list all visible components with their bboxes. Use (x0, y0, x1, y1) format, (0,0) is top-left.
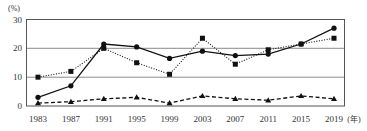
data-point-square-1991 (101, 46, 106, 51)
x-tick-label-2011: 2011 (259, 114, 277, 124)
x-tick-labels: 1983198719911995199920032007201120152019 (29, 114, 344, 124)
data-point-circle-1999 (167, 56, 172, 61)
data-point-square-2011 (266, 47, 271, 52)
plot-frame (27, 20, 345, 107)
data-point-square-1983 (36, 75, 41, 80)
y-axis-unit-group: (%) (8, 4, 20, 13)
data-point-square-2003 (200, 36, 205, 41)
data-point-square-2007 (233, 62, 238, 67)
data-point-square-1999 (167, 72, 172, 77)
data-point-circle-2007 (233, 53, 238, 58)
x-tick-label-2019: 2019 (325, 114, 344, 124)
line-chart: (%) 30 20 10 0 1983198719911995199920032… (0, 0, 367, 131)
x-axis-unit-label: (年) (347, 114, 361, 124)
data-point-circle-1995 (134, 44, 139, 49)
y-tick-label-30: 30 (13, 15, 23, 25)
x-tick-label-1991: 1991 (95, 114, 113, 124)
data-point-square-2019 (332, 36, 337, 41)
x-tick-label-2003: 2003 (193, 114, 212, 124)
y-tick-labels: 30 20 10 0 (13, 15, 23, 111)
x-tick-label-2007: 2007 (226, 114, 245, 124)
data-point-circle-1987 (68, 83, 73, 88)
y-tick-label-20: 20 (13, 43, 23, 53)
x-tick-label-1983: 1983 (29, 114, 48, 124)
data-point-square-1995 (134, 60, 139, 65)
x-tick-label-1987: 1987 (62, 114, 81, 124)
x-tick-label-1999: 1999 (161, 114, 180, 124)
chart-container: (%) 30 20 10 0 1983198719911995199920032… (0, 0, 367, 131)
x-tick-label-1995: 1995 (128, 114, 147, 124)
data-point-triangle-2003 (199, 93, 205, 98)
plot-area (27, 20, 345, 107)
y-axis-unit-label: (%) (8, 4, 20, 13)
x-tick-label-2015: 2015 (292, 114, 311, 124)
y-tick-label-10: 10 (13, 72, 23, 82)
data-point-circle-2003 (200, 49, 205, 54)
data-point-circle-2019 (331, 26, 336, 31)
series-line-triangle (38, 96, 334, 103)
data-point-circle-2011 (266, 52, 271, 57)
series-layer (35, 26, 337, 106)
data-point-square-2015 (299, 42, 304, 47)
series-triangle (35, 93, 337, 105)
data-point-triangle-1995 (134, 94, 140, 99)
y-tick-label-0: 0 (18, 101, 23, 111)
data-point-square-1987 (68, 69, 73, 74)
data-point-circle-1983 (35, 95, 40, 100)
series-circle (35, 26, 336, 100)
